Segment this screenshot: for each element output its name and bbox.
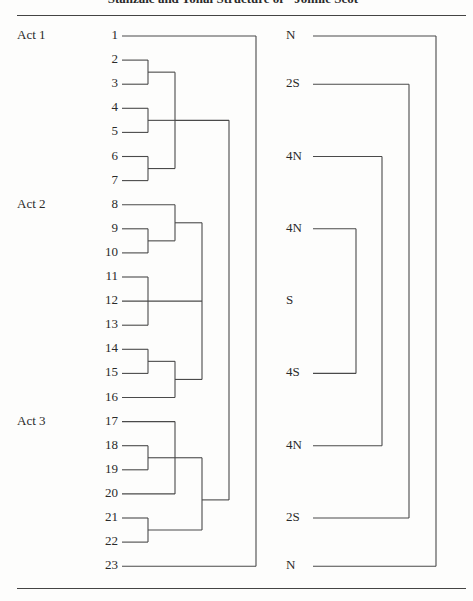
bracket-diagram: [0, 0, 473, 601]
